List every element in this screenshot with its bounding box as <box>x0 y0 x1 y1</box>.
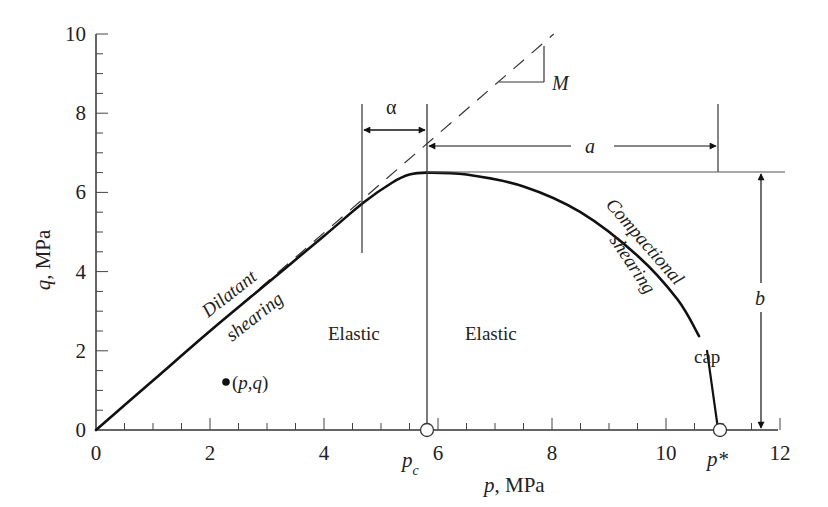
b-label: b <box>755 287 765 309</box>
x-tick-label: 0 <box>91 441 102 465</box>
cap-label: cap <box>694 346 720 367</box>
y-tick-label: 0 <box>76 418 87 442</box>
axes <box>96 34 778 430</box>
x-tick-label: 8 <box>547 441 558 465</box>
axis-ticks <box>96 34 780 430</box>
alpha-label: α <box>386 96 397 118</box>
pstar-marker <box>714 424 727 437</box>
elastic-right-label: Elastic <box>465 323 517 344</box>
axis-tick-labels: 0246810120246810 <box>65 22 791 465</box>
x-tick-label: 2 <box>205 441 216 465</box>
y-tick-label: 10 <box>65 22 86 46</box>
pc-label: pc <box>400 448 420 478</box>
y-tick-label: 4 <box>76 260 87 284</box>
slope-triangle <box>499 46 544 82</box>
y-tick-label: 8 <box>76 101 87 125</box>
x-axis-label: p, MPa <box>482 473 545 497</box>
pq-point <box>222 378 230 386</box>
yield-surface-chart: 0246810120246810 p, MPa q, MPa M α a b D… <box>0 0 828 507</box>
a-label: a <box>585 135 595 157</box>
pstar-label: p* <box>705 447 729 471</box>
x-tick-label: 6 <box>433 441 444 465</box>
pc-marker <box>421 424 434 437</box>
y-tick-label: 6 <box>76 180 87 204</box>
slope-label-m: M <box>551 72 570 94</box>
pq-label: (p,q) <box>232 372 268 394</box>
x-tick-label: 10 <box>656 441 677 465</box>
x-tick-label: 12 <box>770 441 791 465</box>
y-axis-label: q, MPa <box>31 229 55 290</box>
x-tick-label: 4 <box>319 441 330 465</box>
elastic-left-label: Elastic <box>328 323 380 344</box>
y-tick-label: 2 <box>76 339 87 363</box>
